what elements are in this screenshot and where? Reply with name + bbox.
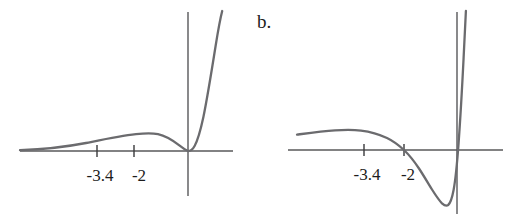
x-tick-label-a-neg3p4: -3.4 (87, 166, 114, 185)
plot-a-svg: -3.4 -2 (0, 0, 253, 214)
plot-b-svg: -3.4 -2 (253, 0, 507, 214)
x-tick-label-b-neg2: -2 (401, 165, 415, 184)
x-tick-label-a-neg2: -2 (132, 166, 146, 185)
figure-container: . -3.4 -2 b. (0, 0, 507, 214)
curve-a (20, 11, 222, 151)
x-tick-label-b-neg3p4: -3.4 (354, 165, 381, 184)
plot-panel-b: b. -3.4 -2 (253, 0, 507, 214)
curve-b (297, 11, 466, 206)
plot-panel-a: . -3.4 -2 (0, 0, 253, 214)
